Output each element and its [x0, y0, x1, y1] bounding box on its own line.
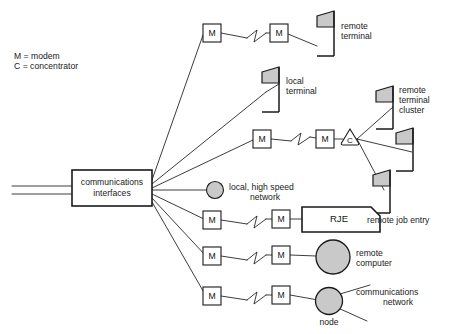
remote-computer-label-line1: remote	[356, 248, 383, 258]
line-m5-to-zig	[221, 220, 247, 224]
lhsn-label-line1: local, high speed	[229, 182, 294, 192]
legend-modem: M = modem	[14, 51, 60, 61]
terminal-cluster-1[interactable]	[376, 86, 393, 129]
link-hub-to-concentrator-row	[152, 140, 253, 188]
remote-computer-circle[interactable]	[316, 240, 350, 274]
node-circle[interactable]	[316, 288, 343, 315]
terminal-remote[interactable]	[317, 11, 334, 56]
concentrator-letter: C	[341, 136, 359, 146]
line-m3-to-zig	[271, 139, 291, 141]
remote-terminal-label-line2: terminal	[341, 31, 372, 41]
zigzag-row4	[247, 252, 266, 264]
modem-letter-9: M	[203, 291, 221, 301]
line-m8-to-computer	[290, 255, 316, 256]
modem-letter-1: M	[203, 28, 221, 38]
zigzag-row3	[247, 216, 266, 228]
line-concentrator-to-cluster-t1	[357, 107, 393, 139]
modem-letter-5: M	[203, 215, 221, 225]
line-m10-to-node	[290, 295, 318, 300]
link-hub-to-local-terminal	[152, 92, 266, 184]
line-to-local-terminal	[266, 84, 279, 92]
local-terminal-label-line1: local	[286, 76, 304, 86]
modem-letter-4: M	[316, 134, 334, 144]
network-diagram	[0, 0, 460, 334]
lhsn-label-line2: network	[229, 192, 301, 202]
terminal-cluster-2[interactable]	[396, 128, 413, 171]
link-hub-to-modem-top	[152, 35, 203, 180]
local-terminal-label-line2: terminal	[286, 86, 317, 96]
remote-computer-label-line2: computer	[356, 258, 392, 268]
remote-terminal-label-line1: remote	[341, 21, 368, 31]
communications-network-label-line2: network	[356, 297, 440, 307]
line-m7-to-zig	[221, 256, 247, 260]
modem-letter-10: M	[272, 290, 290, 300]
rje-label: RJE	[302, 214, 376, 224]
zigzag-row5	[247, 292, 266, 304]
modem-boxes	[203, 24, 334, 305]
terminal-cluster-3[interactable]	[373, 170, 390, 213]
modem-letter-6: M	[272, 214, 290, 224]
hub-label-line2: interfaces	[72, 188, 152, 198]
legend-concentrator: C = concentrator	[14, 61, 78, 71]
line-m9-to-zig	[221, 296, 247, 300]
rje-description-label: remote job entry	[367, 215, 429, 225]
modem-letter-8: M	[272, 250, 290, 260]
line-m1-to-zig	[221, 33, 247, 38]
cluster-label-line2: terminal	[399, 95, 430, 105]
cluster-label-line1: remote	[399, 85, 426, 95]
zigzag-row1	[247, 30, 266, 42]
local-high-speed-network-circle[interactable]	[207, 182, 224, 199]
line-m2-to-terminal	[288, 34, 317, 46]
modem-letter-3: M	[253, 134, 271, 144]
zigzag-row2	[291, 133, 310, 145]
communications-network-label-line1: communications	[356, 287, 418, 297]
node-label: node	[304, 317, 354, 327]
modem-letter-2: M	[270, 28, 288, 38]
hub-label-line1: communications	[72, 177, 152, 187]
cluster-label-line3: cluster	[399, 105, 424, 115]
modem-letter-7: M	[203, 251, 221, 261]
